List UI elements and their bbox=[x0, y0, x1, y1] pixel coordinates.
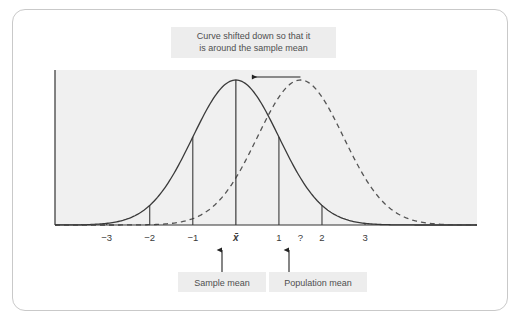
axis-tick-label-2: 2 bbox=[319, 232, 324, 243]
axis-tick-label-3: 3 bbox=[362, 232, 367, 243]
callout-population-mean: Population mean bbox=[269, 250, 367, 292]
callout-sample-mean: Sample mean bbox=[178, 250, 266, 292]
top-caption-line1: Curve shifted down so that it bbox=[197, 31, 311, 41]
axis-tick-label-neg1: −1 bbox=[187, 232, 198, 243]
plot-background bbox=[55, 70, 477, 225]
axis-tick-label-neg3: −3 bbox=[101, 232, 112, 243]
sampling-distribution-figure: Curve shifted down so that it is around … bbox=[0, 0, 523, 325]
axis-tick-label-xbar: x̄ bbox=[232, 232, 239, 243]
top-caption-line2: is around the sample mean bbox=[199, 43, 308, 53]
callout-label-sample-mean: Sample mean bbox=[194, 278, 250, 288]
top-caption: Curve shifted down so that it is around … bbox=[171, 27, 336, 58]
callout-label-population-mean: Population mean bbox=[284, 278, 352, 288]
axis-tick-label-1: 1 bbox=[276, 232, 281, 243]
axis-tick-label-neg2: −2 bbox=[144, 232, 155, 243]
axis-tick-label-question: ? bbox=[298, 232, 303, 243]
